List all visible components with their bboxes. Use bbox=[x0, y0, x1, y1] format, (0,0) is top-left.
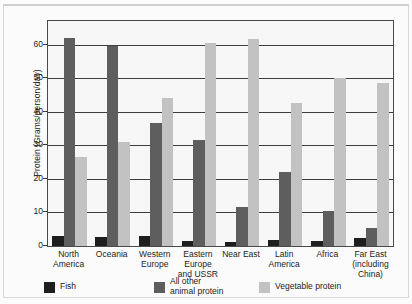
legend-item[interactable]: All other animal protein bbox=[154, 277, 223, 297]
x-axis-category-line: America bbox=[41, 259, 96, 269]
bar bbox=[64, 38, 76, 246]
bar bbox=[377, 83, 389, 246]
bar bbox=[205, 43, 217, 246]
x-axis-category-line: (including bbox=[343, 259, 398, 269]
x-axis-category-line: America bbox=[257, 259, 312, 269]
y-axis-tick-label: 30 bbox=[3, 139, 43, 149]
legend-item[interactable]: Vegetable protein bbox=[259, 277, 341, 297]
y-axis-tick-mark bbox=[43, 211, 47, 212]
y-axis-tick-mark bbox=[43, 44, 47, 45]
bar-group bbox=[311, 21, 346, 246]
legend-swatch-icon bbox=[44, 282, 55, 293]
x-axis-category-label: Far East(includingChina) bbox=[343, 249, 398, 280]
bar-group bbox=[182, 21, 217, 246]
bar-group bbox=[52, 21, 87, 246]
plot-area bbox=[47, 20, 394, 247]
legend-label: All other animal protein bbox=[170, 277, 223, 296]
bar bbox=[323, 211, 335, 246]
bar bbox=[279, 172, 291, 246]
bar bbox=[248, 39, 260, 246]
y-axis-title: Protein (Grams/person/day) bbox=[32, 28, 42, 218]
bar bbox=[236, 207, 248, 246]
bar bbox=[225, 242, 237, 246]
bar bbox=[118, 142, 130, 246]
y-axis-tick-mark bbox=[43, 178, 47, 179]
legend-label: Vegetable protein bbox=[275, 282, 341, 292]
legend-swatch-icon bbox=[154, 282, 165, 293]
bar-group bbox=[139, 21, 174, 246]
y-axis-tick-label: 50 bbox=[3, 72, 43, 82]
bar bbox=[162, 98, 174, 246]
bars-layer bbox=[48, 21, 393, 246]
bar bbox=[107, 46, 119, 246]
legend-item[interactable]: Fish bbox=[44, 277, 76, 297]
y-axis-tick-mark bbox=[43, 144, 47, 145]
bar bbox=[366, 228, 378, 246]
chart-figure: Protein (Grams/person/day) 0102030405060… bbox=[0, 0, 412, 304]
bar bbox=[291, 103, 303, 246]
legend-label: Fish bbox=[60, 282, 76, 292]
bar bbox=[354, 238, 366, 246]
y-axis-tick-label: 60 bbox=[3, 39, 43, 49]
y-axis-tick-mark bbox=[43, 111, 47, 112]
legend-swatch-icon bbox=[259, 282, 270, 293]
y-axis-tick-label: 10 bbox=[3, 206, 43, 216]
bar-group bbox=[95, 21, 130, 246]
bar-group bbox=[354, 21, 389, 246]
bar bbox=[268, 240, 280, 246]
y-axis-tick-label: 40 bbox=[3, 106, 43, 116]
y-axis-tick-label: 20 bbox=[3, 173, 43, 183]
y-axis-tick-label: 0 bbox=[3, 240, 43, 250]
bar bbox=[150, 123, 162, 246]
bar bbox=[193, 140, 205, 246]
bar bbox=[95, 237, 107, 246]
chart-legend: FishAll other animal proteinVegetable pr… bbox=[44, 277, 374, 297]
bar bbox=[75, 157, 87, 246]
bar-group bbox=[225, 21, 260, 246]
bar bbox=[311, 241, 323, 246]
x-axis-category-line: Far East bbox=[343, 249, 398, 259]
bar bbox=[139, 236, 151, 246]
y-axis-tick-mark bbox=[43, 245, 47, 246]
bar bbox=[52, 236, 64, 246]
bar-group bbox=[268, 21, 303, 246]
y-axis-tick-mark bbox=[43, 77, 47, 78]
bar bbox=[182, 241, 194, 246]
bar bbox=[334, 78, 346, 246]
x-axis-category-line: Europe bbox=[170, 259, 225, 269]
